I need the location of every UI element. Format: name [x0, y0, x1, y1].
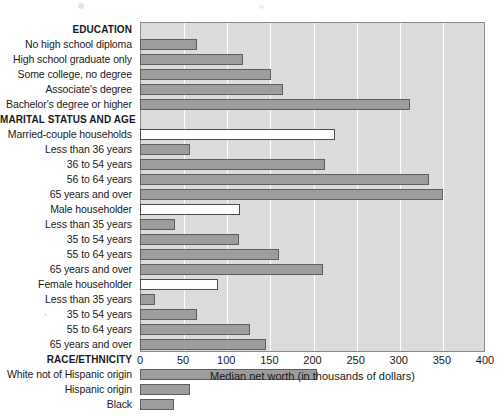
category-label: Less than 36 years	[0, 142, 136, 157]
category-label-column: EDUCATIONNo high school diplomaHigh scho…	[0, 22, 136, 352]
bar	[140, 54, 243, 65]
chart-row	[140, 217, 485, 232]
bar	[140, 144, 190, 155]
section-header-label: MARITAL STATUS AND AGE	[0, 112, 136, 127]
chart-row	[140, 232, 485, 247]
category-label: 65 years and over	[0, 337, 136, 352]
category-label: Less than 35 years	[0, 292, 136, 307]
chart-row	[140, 37, 485, 52]
chart-row	[140, 262, 485, 277]
bar	[140, 399, 174, 410]
category-label: 56 to 64 years	[0, 172, 136, 187]
chart-row	[140, 187, 485, 202]
x-axis-title: Median net worth (in thousands of dollar…	[140, 370, 485, 382]
bar	[140, 294, 155, 305]
bar	[140, 234, 239, 245]
bar	[140, 249, 279, 260]
bar	[140, 279, 218, 290]
category-label: White not of Hispanic origin	[0, 367, 136, 382]
bar	[140, 204, 240, 215]
chart-row	[140, 247, 485, 262]
bar	[140, 84, 283, 95]
chart-row	[140, 142, 485, 157]
chart-row	[140, 397, 485, 412]
x-tick-300: 300	[390, 353, 408, 367]
bar	[140, 129, 335, 140]
category-label: 55 to 64 years	[0, 247, 136, 262]
category-label: Less than 35 years	[0, 217, 136, 232]
bar	[140, 69, 271, 80]
category-label: Male householder	[0, 202, 136, 217]
chart-row	[140, 22, 485, 37]
bar	[140, 99, 410, 110]
category-label: Female householder	[0, 277, 136, 292]
chart-row	[140, 112, 485, 127]
category-label: 55 to 64 years	[0, 322, 136, 337]
category-label: 65 years and over	[0, 187, 136, 202]
bar	[140, 174, 429, 185]
category-label: 35 to 54 years	[0, 307, 136, 322]
x-tick-150: 150	[260, 353, 278, 367]
scan-artifact-speckle	[78, 3, 84, 9]
x-tick-350: 350	[433, 353, 451, 367]
x-tick-50: 50	[177, 353, 189, 367]
bar	[140, 324, 250, 335]
category-label: Hispanic origin	[0, 382, 136, 397]
chart-row	[140, 277, 485, 292]
chart-row	[140, 307, 485, 322]
chart-row	[140, 202, 485, 217]
chart-row	[140, 127, 485, 142]
category-label: High school graduate only	[0, 52, 136, 67]
section-header-label: RACE/ETHNICITY	[0, 352, 136, 367]
category-label: Bachelor's degree or higher	[0, 97, 136, 112]
chart-row	[140, 82, 485, 97]
bar	[140, 39, 197, 50]
chart-row	[140, 382, 485, 397]
x-tick-400: 400	[476, 353, 494, 367]
bar-rows	[140, 22, 485, 352]
category-label: 65 years and over	[0, 262, 136, 277]
chart-row	[140, 97, 485, 112]
bar	[140, 189, 443, 200]
category-label: Some college, no degree	[0, 67, 136, 82]
chart-row	[140, 322, 485, 337]
x-tick-100: 100	[217, 353, 235, 367]
category-label: Associate's degree	[0, 82, 136, 97]
section-header-label: EDUCATION	[0, 22, 136, 37]
bar	[140, 309, 197, 320]
bar	[140, 159, 325, 170]
median-net-worth-bar-chart: EDUCATIONNo high school diplomaHigh scho…	[0, 0, 504, 415]
chart-row	[140, 337, 485, 352]
category-label: 35 to 54 years	[0, 232, 136, 247]
bar	[140, 264, 323, 275]
chart-row	[140, 52, 485, 67]
category-label: 36 to 54 years	[0, 157, 136, 172]
chart-row	[140, 67, 485, 82]
x-tick-250: 250	[346, 353, 364, 367]
chart-row	[140, 292, 485, 307]
category-label: Married-couple households	[0, 127, 136, 142]
chart-row	[140, 172, 485, 187]
category-label: Black	[0, 397, 136, 412]
category-label: No high school diploma	[0, 37, 136, 52]
chart-row	[140, 157, 485, 172]
bar	[140, 219, 175, 230]
bar	[140, 339, 266, 350]
x-tick-200: 200	[303, 353, 321, 367]
scan-artifact-speckle	[259, 5, 264, 9]
bar	[140, 384, 190, 395]
x-tick-0: 0	[137, 353, 143, 367]
x-axis-tick-labels: 050100150200250300350400	[140, 353, 485, 369]
